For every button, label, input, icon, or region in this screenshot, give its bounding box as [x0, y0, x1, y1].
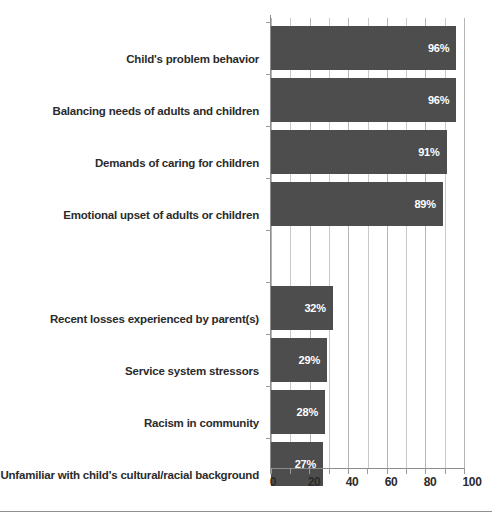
- x-tick-label: 0: [270, 476, 276, 488]
- bar-value-label: 96%: [428, 43, 449, 54]
- bar-value-label: 28%: [297, 407, 318, 418]
- bar-value-label: 32%: [304, 303, 325, 314]
- bar-value-label: 96%: [428, 95, 449, 106]
- y-tickmark: [266, 126, 271, 127]
- gridline-100: [464, 18, 465, 468]
- category-label: Balancing needs of adults and children: [0, 106, 259, 118]
- y-tickmark: [266, 22, 271, 23]
- x-tickmark: [367, 468, 368, 474]
- plot-area: 96% 96% 91% 89% 32% 29% 28% 27%: [271, 18, 464, 468]
- category-label: Recent losses experienced by parent(s): [0, 314, 259, 326]
- footer-divider: [0, 511, 492, 512]
- bar: 96%: [271, 26, 456, 70]
- y-tickmark: [266, 334, 271, 335]
- x-tickmark: [309, 468, 310, 474]
- category-label: Racism in community: [0, 418, 259, 430]
- category-label-column: Child's problem behavior Balancing needs…: [0, 18, 265, 468]
- bar: 32%: [271, 286, 333, 330]
- x-tickmark: [425, 468, 426, 474]
- category-label: Service system stressors: [0, 366, 259, 378]
- x-tick-label: 100: [462, 476, 481, 488]
- y-tickmark: [266, 282, 271, 283]
- x-tick-label: 80: [424, 476, 437, 488]
- x-tickmark: [290, 468, 291, 474]
- x-tickmark: [445, 468, 446, 474]
- x-tick-label: 40: [346, 476, 359, 488]
- bar-chart: Child's problem behavior Balancing needs…: [0, 0, 492, 523]
- x-tickmark: [464, 468, 465, 474]
- y-tickmark: [266, 386, 271, 387]
- bar: 29%: [271, 338, 327, 382]
- category-label: Demands of caring for children: [0, 158, 259, 170]
- bar: 96%: [271, 78, 456, 122]
- x-tickmark: [406, 468, 407, 474]
- x-tick-label: 60: [385, 476, 398, 488]
- y-tickmark: [266, 74, 271, 75]
- x-tick-label: 20: [308, 476, 321, 488]
- category-label: Child's problem behavior: [0, 54, 259, 66]
- y-tickmark: [266, 230, 271, 231]
- bar-value-label: 91%: [418, 147, 439, 158]
- x-tickmark: [329, 468, 330, 474]
- top-cropped-text-artifact: [0, 0, 492, 8]
- bar: 91%: [271, 130, 447, 174]
- bar-value-label: 89%: [414, 199, 435, 210]
- bar-value-label: 29%: [299, 355, 320, 366]
- x-tickmark: [348, 468, 349, 474]
- category-label: Unfamiliar with child's cultural/racial …: [0, 470, 259, 482]
- x-tickmark: [387, 468, 388, 474]
- bar: 89%: [271, 182, 443, 226]
- y-tickmark: [266, 178, 271, 179]
- bar: 28%: [271, 390, 325, 434]
- x-tickmark: [271, 468, 272, 474]
- y-tickmark: [266, 438, 271, 439]
- category-label: Emotional upset of adults or children: [0, 210, 259, 222]
